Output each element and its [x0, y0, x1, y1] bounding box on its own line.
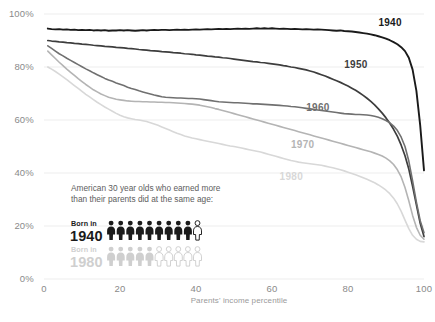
y-axis-tick-label: 40% — [14, 167, 34, 178]
chart-background — [0, 0, 435, 322]
generational-mobility-line-chart: 0%20%40%60%80%100% 020406080100 19401950… — [0, 0, 435, 322]
person-head — [109, 221, 114, 226]
y-axis-tick-label: 20% — [14, 220, 34, 231]
annotation-line-1: American 30 year olds who earned more — [71, 183, 221, 193]
person-head — [137, 247, 142, 252]
x-axis-tick-label: 0 — [41, 283, 46, 294]
person-head — [147, 247, 152, 252]
person-head — [185, 221, 190, 226]
person-head — [157, 221, 162, 226]
legend-year-label: 1980 — [70, 254, 103, 270]
x-axis-tick-label: 80 — [343, 283, 354, 294]
y-axis-tick-label: 100% — [9, 8, 34, 19]
person-head — [128, 247, 133, 252]
person-head — [176, 221, 181, 226]
x-axis-tick-label: 40 — [191, 283, 202, 294]
legend-year-label: 1940 — [70, 228, 103, 244]
x-axis-tick-label: 100 — [416, 283, 432, 294]
series-label-1940: 1940 — [378, 17, 402, 28]
series-label-1950: 1950 — [344, 59, 368, 70]
person-head — [109, 247, 114, 252]
y-axis-tick-label: 80% — [14, 61, 34, 72]
person-head — [147, 221, 152, 226]
y-axis-tick-label: 60% — [14, 114, 34, 125]
x-axis-tick-label: 20 — [115, 283, 126, 294]
person-head — [128, 221, 133, 226]
annotation-line-2: than their parents did at the same age: — [71, 194, 213, 204]
x-axis-title: Parents' income percentile — [191, 296, 288, 305]
person-head — [118, 221, 123, 226]
chart-figure: 0%20%40%60%80%100% 020406080100 19401950… — [0, 0, 435, 322]
x-axis-tick-label: 60 — [267, 283, 278, 294]
series-label-1970: 1970 — [291, 139, 315, 150]
person-head — [137, 221, 142, 226]
series-label-1980: 1980 — [280, 171, 304, 182]
y-axis-tick-label: 0% — [20, 273, 34, 284]
person-head — [166, 221, 171, 226]
series-label-1960: 1960 — [306, 102, 330, 113]
person-head — [118, 247, 123, 252]
